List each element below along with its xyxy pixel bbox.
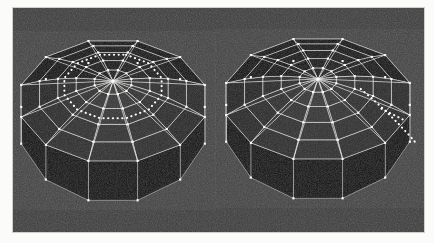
- dome-right: [225, 38, 415, 199]
- dome-left: [20, 40, 206, 201]
- photograph: [13, 8, 424, 232]
- dome-scene: [13, 8, 424, 232]
- figure-root: Two geodesic dome models: [0, 0, 434, 243]
